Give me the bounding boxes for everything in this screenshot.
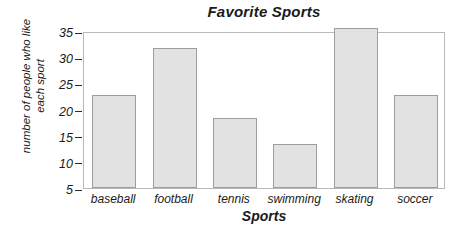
bar-baseball — [92, 95, 136, 188]
bar-skating — [334, 28, 378, 188]
y-axis-tick-label: 20 — [59, 105, 84, 119]
y-tick-value: 20 — [59, 105, 73, 119]
bar-soccer — [394, 95, 438, 188]
chart-title: Favorite Sports — [83, 3, 445, 20]
bars-group — [84, 33, 444, 188]
y-axis-tick-label: 30 — [59, 52, 84, 66]
x-axis-tick-label-soccer: soccer — [365, 192, 461, 206]
bar-chart: Favorite Sports number of people who lik… — [0, 0, 461, 247]
y-axis-tick-label: 35 — [59, 26, 84, 40]
y-tick-value: 10 — [59, 157, 73, 171]
y-axis-title-text: number of people who like each sport — [19, 19, 47, 153]
y-axis-tick-label: 15 — [59, 131, 84, 145]
bar-football — [153, 48, 197, 188]
y-axis-title: number of people who like each sport — [13, 6, 53, 166]
y-tick-value: 30 — [59, 52, 73, 66]
plot-area: 5101520253035 — [83, 32, 445, 189]
y-tick-mark — [75, 163, 82, 164]
x-axis-title: Sports — [83, 208, 445, 224]
bar-swimming — [273, 144, 317, 188]
y-tick-mark — [75, 59, 82, 60]
y-tick-value: 15 — [59, 131, 73, 145]
y-tick-mark — [75, 137, 82, 138]
y-tick-mark — [75, 85, 82, 86]
bar-tennis — [213, 118, 257, 188]
y-axis-tick-label: 25 — [59, 78, 84, 92]
y-tick-mark — [75, 111, 82, 112]
y-axis-tick-label: 10 — [59, 157, 84, 171]
y-tick-mark — [75, 33, 82, 34]
y-tick-value: 35 — [59, 26, 73, 40]
y-tick-mark — [75, 190, 82, 191]
y-tick-value: 25 — [59, 78, 73, 92]
